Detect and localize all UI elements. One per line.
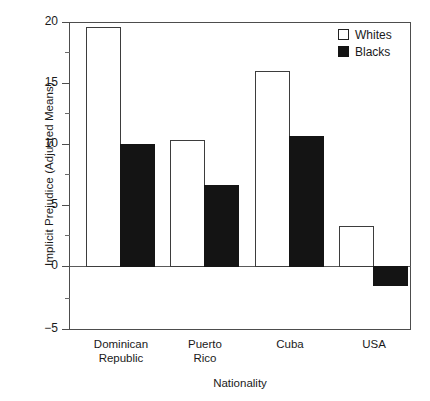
y-tick-20 xyxy=(62,22,70,23)
x-tick-label-usa: USA xyxy=(323,337,425,351)
y-tick-0 xyxy=(62,266,70,267)
bar-whites-dominican-republic xyxy=(86,27,121,267)
y-tick-minor-7p5 xyxy=(65,174,70,175)
y-tick-minor-2p5 xyxy=(65,235,70,236)
legend-swatch-whites-icon xyxy=(338,29,349,40)
bar-whites-cuba xyxy=(255,71,290,267)
y-tick-label-20: 20 xyxy=(18,15,58,27)
y-tick-label-15: 15 xyxy=(18,76,58,88)
bar-blacks-puerto-rico xyxy=(204,185,239,267)
y-tick-minor-17p5 xyxy=(65,52,70,53)
legend-item-blacks: Blacks xyxy=(338,43,406,60)
legend: Whites Blacks xyxy=(338,26,406,60)
bar-blacks-dominican-republic xyxy=(120,144,155,267)
y-tick-label-0: 0 xyxy=(18,259,58,271)
y-tick-15 xyxy=(62,83,70,84)
y-tick-label-5: 5 xyxy=(18,198,58,210)
y-tick-minor-12p5 xyxy=(65,113,70,114)
legend-item-whites: Whites xyxy=(338,26,406,43)
x-tick-label-line-2: Rico xyxy=(154,351,256,365)
legend-label-whites: Whites xyxy=(355,28,392,42)
legend-swatch-blacks-icon xyxy=(338,46,349,57)
y-tick-10 xyxy=(62,144,70,145)
y-tick-label-minus5: −5 xyxy=(18,322,58,334)
bar-whites-usa xyxy=(339,226,374,267)
y-tick-minus5 xyxy=(62,329,70,330)
y-tick-5 xyxy=(62,205,70,206)
y-tick-minor-m2p5 xyxy=(65,298,70,299)
y-tick-label-10: 10 xyxy=(18,137,58,149)
bar-blacks-cuba xyxy=(289,136,324,267)
x-axis-title: Nationality xyxy=(69,377,411,389)
bar-whites-puerto-rico xyxy=(170,140,205,267)
bar-blacks-usa xyxy=(373,266,408,286)
x-tick-label-line-1: USA xyxy=(323,337,425,351)
legend-label-blacks: Blacks xyxy=(355,45,390,59)
bar-chart-figure: Implicit Prejudice (Adjusted Means) 20 1… xyxy=(0,0,430,401)
